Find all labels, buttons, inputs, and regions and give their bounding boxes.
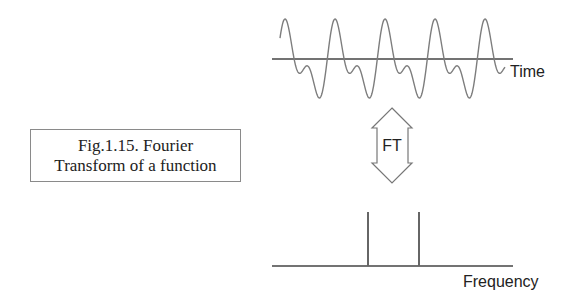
- frequency-axis-label: Frequency: [463, 273, 539, 290]
- fourier-transform-arrow: FT: [372, 108, 412, 183]
- time-axis-label: Time: [510, 63, 545, 80]
- ft-label: FT: [382, 137, 402, 154]
- figure-caption: Fig.1.15. Fourier Transform of a functio…: [30, 129, 241, 182]
- caption-line-1: Fig.1.15. Fourier: [78, 136, 193, 156]
- time-domain-plot: Time: [272, 19, 545, 98]
- frequency-domain-plot: Frequency: [272, 212, 539, 290]
- caption-line-2: Transform of a function: [54, 156, 216, 176]
